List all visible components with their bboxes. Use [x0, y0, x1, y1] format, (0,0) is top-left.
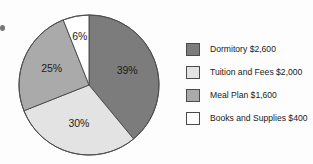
pie-slice-percent-label: 25% — [41, 62, 62, 74]
legend-item: Tuition and Fees $2,000 — [186, 61, 310, 84]
pie-slice-percent-label: 39% — [117, 64, 138, 76]
legend-item: Dormitory $2,600 — [186, 38, 310, 61]
legend-swatch — [186, 43, 200, 56]
legend-item-label: Meal Plan $1,600 — [210, 91, 277, 100]
pie-slice-group — [19, 15, 159, 155]
page-edge-artifact — [0, 25, 5, 31]
pie-chart: 39%30%25%6% — [18, 14, 160, 156]
legend-item-label: Dormitory $2,600 — [210, 45, 276, 54]
legend-item-label: Tuition and Fees $2,000 — [210, 68, 302, 77]
legend-swatch — [186, 89, 200, 102]
legend-item-label: Books and Supplies $400 — [210, 114, 307, 123]
legend-item: Meal Plan $1,600 — [186, 84, 310, 107]
legend-item: Books and Supplies $400 — [186, 107, 310, 130]
legend-swatch — [186, 112, 200, 125]
legend-swatch — [186, 66, 200, 79]
pie-slice-percent-label: 30% — [68, 117, 89, 129]
chart-legend: Dormitory $2,600Tuition and Fees $2,000M… — [186, 38, 310, 130]
pie-slice-percent-label: 6% — [72, 30, 87, 42]
pie-chart-figure: 39%30%25%6% Dormitory $2,600Tuition and … — [0, 0, 313, 164]
pie-chart-svg: 39%30%25%6% — [18, 14, 160, 156]
